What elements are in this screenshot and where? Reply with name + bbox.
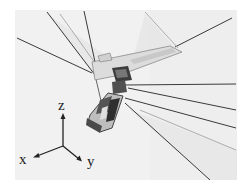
y-axis-label: y xyxy=(87,153,95,169)
x-axis-label: x xyxy=(19,151,27,167)
z-axis-label: z xyxy=(58,97,65,113)
photo: z x y xyxy=(0,0,248,191)
figure: z x y xyxy=(0,0,248,191)
